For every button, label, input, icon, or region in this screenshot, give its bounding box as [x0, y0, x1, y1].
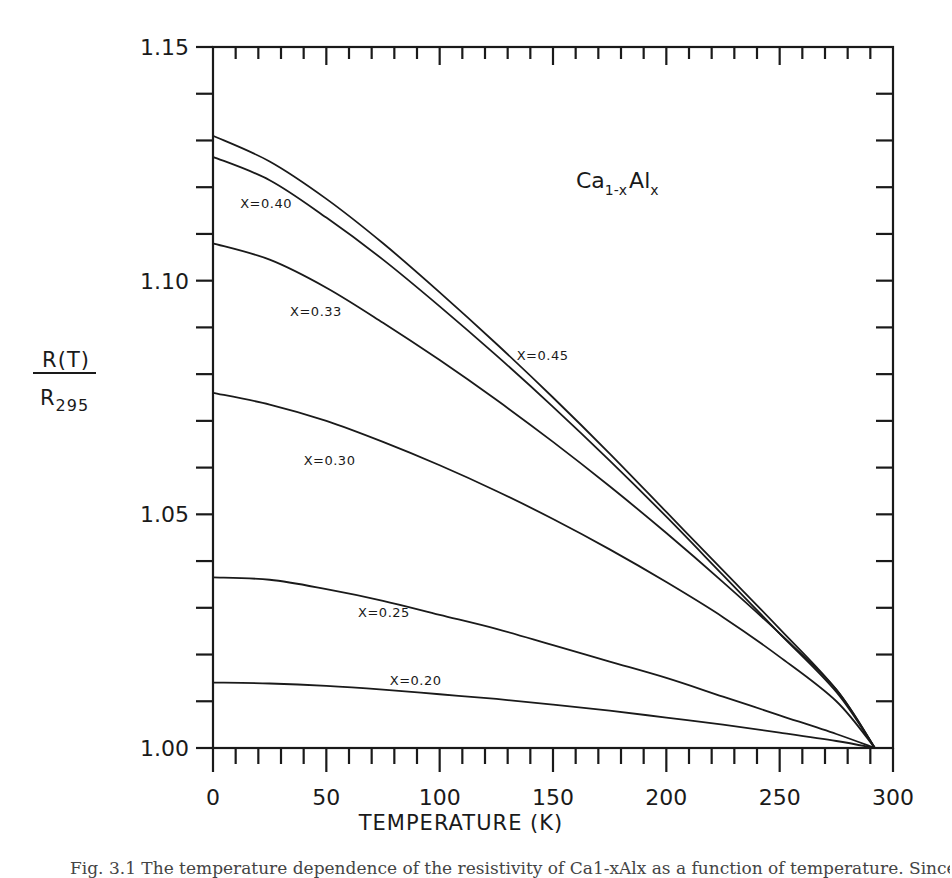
formula-sub2: x	[650, 182, 658, 198]
x-tick-label: 200	[645, 785, 687, 810]
curve-labels: X=0.45X=0.40X=0.33X=0.30X=0.25X=0.20	[240, 196, 568, 688]
figure-caption: Fig. 3.1 The temperature dependence of t…	[70, 858, 950, 878]
y-tick-label: 1.10	[140, 269, 189, 294]
curve-label: X=0.30	[304, 453, 356, 468]
x-tick-labels: 050100150200250300	[206, 785, 914, 810]
curve-x-0-20	[213, 683, 875, 748]
y-tick-labels: 1.001.051.101.15	[140, 35, 189, 761]
y-tick-label: 1.05	[140, 502, 189, 527]
y-axis-denominator-sub: 295	[56, 396, 90, 415]
formula-sub1: 1-x	[605, 182, 627, 198]
curve-label: X=0.45	[517, 348, 569, 363]
x-tick-label: 150	[532, 785, 574, 810]
formula-mid: Al	[629, 168, 650, 193]
y-axis-numerator: R(T)	[42, 348, 90, 372]
curve-x-0-25	[213, 577, 875, 748]
curve-x-0-30	[213, 393, 875, 748]
curves	[213, 136, 875, 748]
x-tick-label: 100	[419, 785, 461, 810]
curve-label: X=0.40	[240, 196, 292, 211]
curve-label: X=0.33	[290, 304, 342, 319]
curve-x-0-33	[213, 243, 875, 748]
curve-x-0-45	[213, 136, 875, 748]
y-axis-denominator-base: R	[40, 386, 56, 410]
y-tick-label: 1.00	[140, 736, 189, 761]
formula-annotation: Ca1-xAlx	[576, 168, 659, 198]
y-axis-denominator: R295	[40, 386, 89, 415]
y-axis-title: R(T) R295	[33, 348, 96, 415]
x-tick-label: 0	[206, 785, 220, 810]
formula-base: Ca	[576, 168, 605, 193]
y-tick-label: 1.15	[140, 35, 189, 60]
x-tick-label: 50	[312, 785, 340, 810]
x-tick-label: 300	[872, 785, 914, 810]
curve-label: X=0.25	[358, 605, 410, 620]
curve-label: X=0.20	[390, 673, 442, 688]
x-tick-label: 250	[759, 785, 801, 810]
x-axis-title: TEMPERATURE (K)	[358, 811, 564, 835]
